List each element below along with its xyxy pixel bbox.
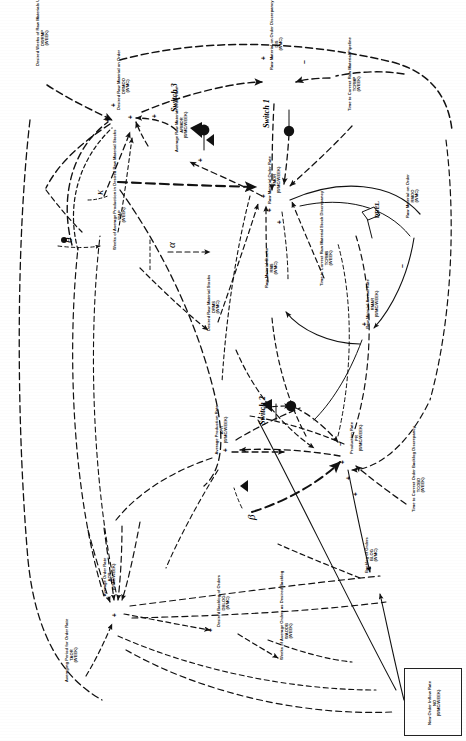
- link-drms-rmor: [218, 204, 258, 322]
- ddel-label: DDEL: [374, 201, 380, 218]
- link-pr-rmor-right: [352, 236, 369, 438]
- polarity-plus-12: +: [345, 476, 352, 480]
- polarity-minus-1: –: [300, 60, 307, 64]
- link-no-blog: [380, 594, 404, 700]
- link-beta-pr: [252, 462, 340, 512]
- polarity-plus-4: +: [151, 114, 158, 118]
- polarity-plus-2: +: [104, 118, 111, 122]
- kappa-label: κ: [93, 190, 105, 195]
- polarity-plus-1: +: [110, 103, 117, 107]
- link-wap-drms: [140, 268, 208, 330]
- link-waodb-dblog: [238, 634, 278, 658]
- link-right-edge: [430, 140, 451, 400]
- polarity-minus-2: –: [398, 264, 405, 268]
- valve-left-1: [190, 122, 202, 138]
- diagram-canvas: Desired Weeks of Raw Materials Usage in …: [0, 0, 466, 741]
- polarity-minus-3: –: [336, 442, 343, 446]
- link-apr-up: [236, 408, 300, 440]
- link-center-loop-left: [120, 190, 221, 486]
- polarity-plus-6: +: [260, 56, 267, 60]
- polarity-plus-15: +: [111, 613, 118, 617]
- link-left-arc-2: [93, 236, 116, 592]
- polarity-plus-16: +: [207, 628, 214, 632]
- var-label-rmor: Raw Material Order Rate RMOR (WMC/WEEK): [268, 155, 282, 205]
- polarity-plus-8: +: [266, 208, 273, 212]
- link-pr-rmor-right2: [338, 244, 349, 436]
- link-fan-4: [122, 522, 140, 600]
- var-label-pr: Production Rate PR (WMC/WEEK): [350, 414, 364, 462]
- polarity-plus-14: +: [222, 448, 229, 452]
- var-label-rmoo: Raw Material on Order RMOO (WMC): [406, 173, 420, 219]
- link-rmoo-rmar: [374, 238, 414, 328]
- theta-label: θ: [62, 238, 74, 243]
- link-rmor-rmoo-solid: [290, 186, 420, 214]
- var-label-waodb: Weeks of Average Orders as Desired Backl…: [280, 602, 294, 660]
- var-label-tcrms: Time to Correct Raw Material Stock Discr…: [320, 230, 334, 286]
- link-blog-left: [278, 544, 360, 578]
- polarity-plus-9: +: [276, 220, 283, 224]
- var-label-rms: Raw Material Stocks RMS (WMC): [265, 246, 279, 290]
- var-label-dblog: Desired Backlog of Orders DBLOG (WMC): [217, 579, 231, 627]
- switch-1-valve: [284, 126, 294, 136]
- link-rmoo-dis: [296, 78, 330, 82]
- link-switch3-drmoo: [136, 118, 176, 130]
- polarity-plus-11: +: [339, 460, 346, 464]
- var-label-no: New Order Inflow Rate NO (WMC/WEEK): [428, 680, 442, 726]
- link-switch2-pr: [296, 408, 338, 442]
- link-theta-out: [58, 246, 100, 248]
- link-apr-left: [116, 458, 212, 520]
- link-apr-down: [166, 470, 218, 568]
- link-kappa-stub: [88, 196, 108, 200]
- switch-3-label: Switch 3: [170, 83, 179, 112]
- polarity-plus-5: +: [197, 158, 204, 162]
- link-taor-aor: [86, 624, 112, 676]
- link-left-arc-1: [73, 248, 104, 596]
- valve-beta-tri: [240, 480, 248, 492]
- switch-2-label: Switch 2: [258, 396, 267, 425]
- alpha-label: α: [165, 242, 177, 248]
- var-label-wap: Weeks of Average Production in Desired R…: [113, 180, 127, 250]
- var-label-dwrmp: Desired Weeks of Raw Materials Usage in …: [36, 10, 50, 66]
- var-label-drms: Desired Raw Material Stocks DRMS (WMC): [207, 283, 221, 331]
- link-switch1-rmor: [284, 134, 289, 184]
- polarity-plus-7: +: [260, 194, 267, 198]
- polarity-plus-17: +: [366, 566, 373, 570]
- var-label-blog: Backlog of Orders BLOG (WMC): [365, 533, 379, 577]
- beta-label: β: [245, 515, 257, 520]
- polarity-plus-10: +: [361, 322, 368, 326]
- link-rmar-down: [314, 340, 362, 420]
- var-label-tcrmp: Time to Correct Raw Material Pipeline TC…: [348, 57, 362, 111]
- link-rmor-rmoo-solid2: [300, 202, 410, 236]
- polarity-plus-3: +: [127, 115, 134, 119]
- link-bottom-sweep-1: [130, 576, 380, 606]
- var-label-tcobd: Time to Correct Order Backlog Discrepanc…: [412, 458, 426, 512]
- link-beta-stem: [234, 488, 242, 508]
- link-drmoo-left: [46, 124, 110, 188]
- valve-left-2: [206, 134, 214, 146]
- link-armor-drmoo: [136, 122, 148, 146]
- link-left-spine: [19, 120, 102, 700]
- link-fan-3: [118, 526, 122, 600]
- link-bottom-sweep-3: [126, 650, 392, 712]
- link-drmoo-dis: [142, 82, 262, 112]
- link-rmor-armor: [190, 162, 262, 196]
- link-tcrmp-rmor: [290, 126, 352, 186]
- var-label-taor: Averaging Period for Order Rate TAOR (WE…: [65, 628, 79, 682]
- polarity-plus-13: +: [352, 492, 359, 496]
- var-label-rmar: Raw Material Arrival Rate RMAR (WMC/WEEK…: [366, 278, 380, 330]
- link-tl-1: [46, 190, 82, 232]
- var-label-drmoo: Desired Raw Material on Order DRMOO (WMC…: [117, 62, 131, 110]
- link-bottom-sweep-2: [132, 602, 386, 618]
- var-label-dis: Raw Material on Order Discrepancy DIS (W…: [270, 18, 284, 70]
- link-bottom-sweep-4: [118, 636, 376, 690]
- var-label-aor: Average Order Rate AOR (WMC/WEEK): [103, 553, 117, 601]
- switch-1-label: Switch 1: [262, 99, 271, 128]
- link-tcobd-pr: [356, 466, 406, 504]
- link-dwrmp-drmoo: [47, 85, 112, 120]
- switch-2-valve: [286, 401, 296, 411]
- link-center-loop-inner: [222, 196, 250, 382]
